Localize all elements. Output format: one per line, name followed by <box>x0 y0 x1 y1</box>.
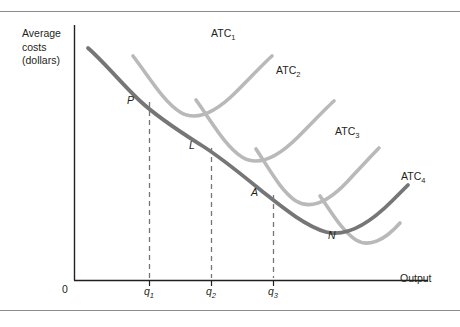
x-tick-label-q3: q3 <box>268 285 278 298</box>
y-axis-label-line-2: costs <box>22 41 61 55</box>
chart-plot-area <box>0 0 460 327</box>
x-tick-label-q2: q2 <box>206 285 216 298</box>
curve-label-atc3: ATC3 <box>335 125 359 138</box>
x-tick-label-q1: q1 <box>144 285 154 298</box>
curve-label-atc1: ATC1 <box>211 27 235 40</box>
annotation-point-a: A <box>251 186 258 199</box>
y-axis-label-line-1: Average <box>22 27 61 41</box>
y-axis-label-line-3: (dollars) <box>22 54 61 68</box>
curve-label-atc4: ATC4 <box>401 170 425 183</box>
x-axis-label: Output <box>400 272 432 285</box>
curve-label-atc2: ATC2 <box>276 64 300 77</box>
origin-label: 0 <box>62 283 68 296</box>
annotation-point-p: P <box>127 94 134 107</box>
figure-container: Average costs (dollars) Output 0 q1 q2 q… <box>0 0 460 327</box>
y-axis-label: Average costs (dollars) <box>22 27 61 68</box>
curve-lrac-envelope <box>88 48 408 233</box>
annotation-point-n: N <box>328 229 336 242</box>
annotation-point-l: L <box>189 139 195 152</box>
